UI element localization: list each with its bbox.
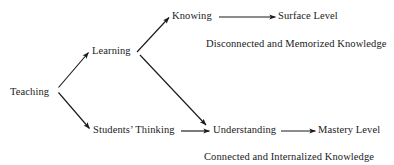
caption-connected-internalized-knowledge: Connected and Internalized Knowledge [204,151,374,163]
node-knowing: Knowing [172,10,212,22]
edge-teaching-to-students-thinking [59,93,90,129]
edge-teaching-to-learning [59,53,89,88]
edge-learning-to-understanding [140,55,206,125]
node-learning: Learning [92,45,131,57]
node-teaching: Teaching [10,86,49,98]
concept-map-diagram: Teaching Learning Students’ Thinking Kno… [0,0,394,165]
edge-layer [0,0,394,165]
node-surface-level: Surface Level [278,10,338,22]
node-students-thinking: Students’ Thinking [93,124,175,136]
edge-learning-to-knowing [137,18,169,53]
node-understanding: Understanding [213,124,276,136]
node-mastery-level: Mastery Level [318,124,380,136]
caption-disconnected-memorized-knowledge: Disconnected and Memorized Knowledge [206,38,387,50]
